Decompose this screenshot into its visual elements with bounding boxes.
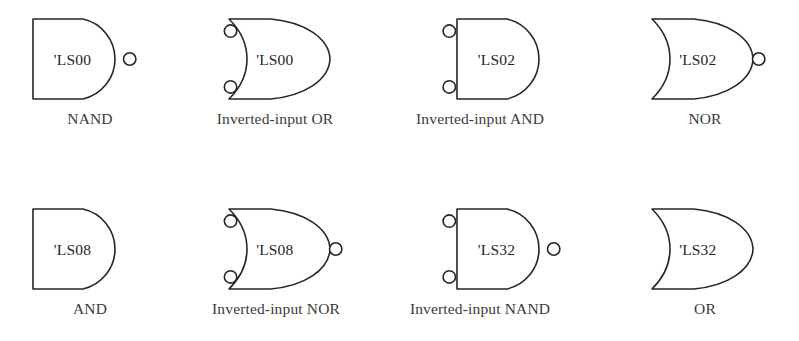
- gate-or-gate-8: 'LS32: [632, 204, 772, 294]
- chip-label: 'LS02: [478, 51, 515, 68]
- chip-label: 'LS08: [256, 241, 293, 258]
- gate-symbol: 'LS08: [14, 204, 142, 294]
- gate-caption: Inverted-input NAND: [375, 300, 585, 318]
- gate-bubble: [224, 25, 236, 37]
- gate-symbol: 'LS00: [209, 14, 349, 104]
- gate-symbol: 'LS32: [632, 204, 772, 294]
- gate-bubble: [443, 271, 455, 283]
- gate-bubble: [753, 53, 765, 65]
- chip-label: 'LS02: [679, 51, 716, 68]
- gate-bubble: [443, 25, 455, 37]
- chip-label: 'LS32: [478, 241, 515, 258]
- gate-bubble: [548, 243, 560, 255]
- gate-and-gate-5: 'LS08: [14, 204, 142, 294]
- gate-caption: OR: [630, 300, 780, 318]
- gate-symbol: 'LS02: [438, 14, 566, 104]
- gate-caption: NAND: [10, 110, 170, 128]
- gate-bubble: [224, 215, 236, 227]
- chip-label: 'LS08: [54, 241, 91, 258]
- gate-symbol: 'LS00: [14, 14, 142, 104]
- gate-or-gate-6: 'LS08: [209, 204, 349, 294]
- gate-caption: Inverted-input AND: [380, 110, 580, 128]
- gate-caption: AND: [10, 300, 170, 318]
- gate-symbol: 'LS08: [209, 204, 349, 294]
- gate-symbol: 'LS32: [438, 204, 566, 294]
- chip-label: 'LS00: [256, 51, 293, 68]
- gate-bubble: [330, 243, 342, 255]
- gate-and-gate-1: 'LS00: [14, 14, 142, 104]
- gate-caption: Inverted-input OR: [185, 110, 365, 128]
- logic-gate-figure: 'LS00NAND'LS00Inverted-input OR'LS02Inve…: [0, 0, 799, 341]
- gate-caption: NOR: [630, 110, 780, 128]
- gate-and-gate-3: 'LS02: [438, 14, 566, 104]
- gate-bubble: [124, 53, 136, 65]
- gate-and-gate-7: 'LS32: [438, 204, 566, 294]
- chip-label: 'LS32: [679, 241, 716, 258]
- chip-label: 'LS00: [54, 51, 91, 68]
- gate-or-gate-2: 'LS00: [209, 14, 349, 104]
- gate-symbol: 'LS02: [632, 14, 772, 104]
- gate-bubble: [443, 81, 455, 93]
- gate-bubble: [224, 81, 236, 93]
- gate-bubble: [443, 215, 455, 227]
- gate-caption: Inverted-input NOR: [180, 300, 372, 318]
- gate-or-gate-4: 'LS02: [632, 14, 772, 104]
- gate-bubble: [224, 271, 236, 283]
